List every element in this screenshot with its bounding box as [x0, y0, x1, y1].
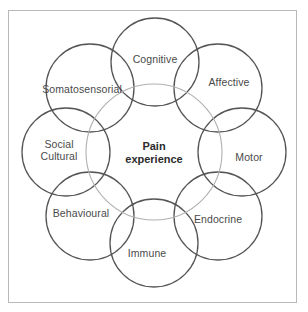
label-motor-line1: Motor: [235, 151, 262, 163]
label-affective-line1: Affective: [209, 76, 250, 88]
label-endocrine-line1: Endocrine: [194, 213, 242, 225]
pain-experience-line2: experience: [125, 152, 182, 164]
label-behavioural: Behavioural: [53, 208, 110, 220]
label-cognitive-line1: Cognitive: [133, 53, 178, 65]
label-motor: Motor: [235, 152, 262, 164]
label-social-cultural-line1: Social: [44, 138, 73, 150]
label-behavioural-line1: Behavioural: [53, 207, 110, 219]
label-social-cultural-line2: Cultural: [41, 149, 78, 161]
label-somatosensorial: Somatosensorial: [42, 84, 122, 96]
label-cognitive: Cognitive: [133, 54, 178, 66]
label-immune-line1: Immune: [128, 247, 167, 259]
label-endocrine: Endocrine: [194, 214, 242, 226]
label-immune: Immune: [128, 248, 167, 260]
pain-experience-label: Pain experience: [125, 140, 182, 165]
venn-diagram-figure: CognitiveAffectiveMotorEndocrineImmuneBe…: [0, 0, 308, 312]
pain-experience-line1: Pain: [142, 140, 165, 152]
label-somatosensorial-line1: Somatosensorial: [42, 83, 122, 95]
label-affective: Affective: [209, 77, 250, 89]
label-social-cultural: SocialCultural: [41, 139, 78, 162]
